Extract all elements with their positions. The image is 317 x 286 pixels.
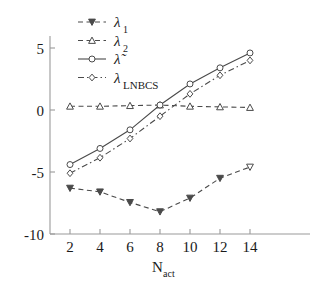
series-lambda_1 bbox=[67, 164, 254, 215]
chart-plot-area: 5 0 -5 -10 2 4 6 8 10 12 14 N act bbox=[0, 0, 317, 286]
legend-sublabel-lambda_LNBCS: LNBCS bbox=[123, 79, 158, 91]
diamond-marker bbox=[89, 74, 95, 81]
legend-item-lambda_1[interactable]: λ1 bbox=[78, 14, 128, 35]
series-lambda_tilde bbox=[67, 50, 253, 168]
x-axis-title: N act bbox=[152, 259, 175, 279]
triangle-down-marker bbox=[187, 195, 194, 201]
circle-marker bbox=[157, 102, 163, 108]
circle-marker bbox=[217, 65, 223, 71]
circle-marker bbox=[187, 81, 193, 87]
legend-label-lambda_2: λ bbox=[113, 33, 121, 49]
legend-item-lambda_2[interactable]: λ2 bbox=[78, 33, 128, 54]
y-tick-label: 0 bbox=[37, 103, 45, 119]
circle-marker bbox=[67, 162, 73, 168]
legend-label-lambda_1: λ bbox=[113, 14, 121, 30]
legend-item-lambda_tilde[interactable]: λ̃ bbox=[78, 51, 126, 67]
data-series-layer bbox=[67, 50, 254, 215]
x-tick-group: 2 4 6 8 10 12 14 bbox=[66, 229, 258, 255]
circle-marker bbox=[127, 127, 133, 133]
legend-item-lambda_LNBCS[interactable]: λLNBCS bbox=[78, 70, 158, 91]
legend-label-lambda_LNBCS: λ bbox=[113, 70, 121, 86]
circle-marker bbox=[97, 145, 103, 151]
legend-sublabel-lambda_1: 1 bbox=[123, 24, 128, 35]
x-tick-label: 8 bbox=[156, 239, 164, 255]
diamond-marker bbox=[157, 113, 163, 120]
x-tick-label: 2 bbox=[66, 239, 74, 255]
circle-marker bbox=[247, 50, 253, 56]
diamond-marker bbox=[97, 154, 103, 161]
x-tick-label: 6 bbox=[126, 239, 134, 255]
y-tick-label: -10 bbox=[24, 227, 44, 243]
x-tick-label: 12 bbox=[213, 239, 228, 255]
diamond-marker bbox=[67, 170, 73, 177]
circle-marker bbox=[89, 56, 95, 62]
x-tick-label: 10 bbox=[183, 239, 198, 255]
axes-group bbox=[50, 36, 310, 234]
x-tick-label: 4 bbox=[96, 239, 104, 255]
diamond-marker bbox=[127, 135, 133, 142]
triangle-down-marker bbox=[157, 209, 164, 215]
legend-sublabel-lambda_2: 2 bbox=[123, 43, 128, 54]
diamond-marker bbox=[247, 57, 253, 64]
diamond-marker bbox=[217, 72, 223, 79]
figure-container: 5 0 -5 -10 2 4 6 8 10 12 14 N act bbox=[0, 0, 317, 286]
series-lambda_LNBCS bbox=[67, 57, 253, 177]
x-axis-title-sub: act bbox=[163, 268, 175, 279]
x-tick-label: 14 bbox=[243, 239, 259, 255]
y-tick-label: 5 bbox=[37, 41, 45, 57]
triangle-up-marker bbox=[247, 104, 254, 110]
x-axis-title-main: N bbox=[152, 259, 163, 275]
diamond-marker bbox=[187, 90, 193, 97]
chart-legend: λ1λ2λ̃λLNBCS bbox=[78, 14, 158, 91]
y-tick-label: -5 bbox=[32, 165, 45, 181]
triangle-down-marker bbox=[247, 164, 254, 170]
triangle-down-marker bbox=[217, 175, 224, 181]
